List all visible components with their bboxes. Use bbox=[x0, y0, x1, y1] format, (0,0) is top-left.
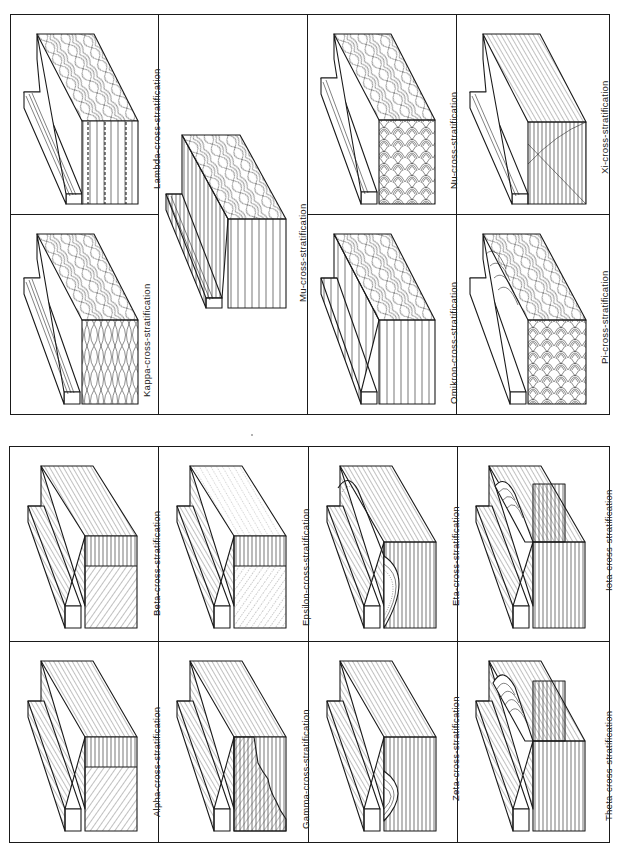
block-diagram-iota bbox=[457, 446, 610, 641]
cell-omikron: Omikron-cross-stratification bbox=[307, 214, 456, 415]
cell-alpha: Alpha-cross-stratification bbox=[9, 641, 158, 843]
cell-theta: Theta-cross-stratification bbox=[457, 641, 610, 843]
block-diagram-nu bbox=[307, 14, 456, 214]
block-diagram-beta bbox=[9, 446, 158, 641]
label-pi: Pi-cross-stratification bbox=[599, 270, 610, 364]
block-diagram-omikron bbox=[307, 214, 456, 415]
cell-iota: Iota-cross-stratification bbox=[457, 446, 610, 641]
block-diagram-mu bbox=[158, 14, 307, 415]
block-diagram-epsilon bbox=[158, 446, 308, 641]
label-nu: Nu-cross-stratification bbox=[448, 92, 459, 189]
cell-epsilon: Epsilon-cross-stratification bbox=[158, 446, 308, 641]
block-diagram-alpha bbox=[9, 641, 158, 843]
block-diagram-zeta bbox=[308, 641, 457, 843]
cell-beta: Beta-cross-stratification bbox=[9, 446, 158, 641]
label-iota: Iota-cross-stratification bbox=[603, 490, 614, 592]
scan-speck bbox=[251, 434, 253, 436]
cell-pi: Pi-cross-stratification bbox=[456, 214, 610, 415]
block-diagram-lambda bbox=[10, 14, 158, 214]
cell-xi: Xi-cross-stratification bbox=[456, 14, 610, 214]
block-diagram-pi bbox=[456, 214, 610, 415]
block-diagram-theta bbox=[457, 641, 610, 843]
cell-kappa: Kappa-cross-stratification bbox=[10, 214, 158, 415]
cell-mu: Mu-cross-stratification bbox=[158, 14, 307, 415]
cell-lambda: Lambda-cross-stratification bbox=[10, 14, 158, 214]
label-theta: Theta-cross-stratification bbox=[603, 711, 614, 821]
cell-zeta: Zeta-cross-stratification bbox=[308, 641, 457, 843]
block-diagram-kappa bbox=[10, 214, 158, 415]
cell-nu: Nu-cross-stratification bbox=[307, 14, 456, 214]
block-diagram-eta bbox=[308, 446, 457, 641]
cell-eta: Eta-cross-stratification bbox=[308, 446, 457, 641]
block-diagram-gamma bbox=[158, 641, 308, 843]
label-kappa: Kappa-cross-stratification bbox=[141, 284, 152, 397]
cell-gamma: Gamma-cross-stratification bbox=[158, 641, 308, 843]
label-omikron: Omikron-cross-stratification bbox=[448, 282, 459, 404]
label-xi: Xi-cross-stratification bbox=[599, 80, 610, 174]
block-diagram-xi bbox=[456, 14, 610, 214]
